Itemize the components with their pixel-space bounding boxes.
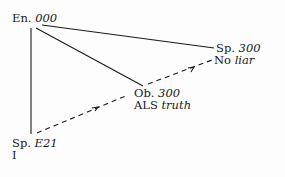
node-en-code: 000 <box>35 11 57 25</box>
node-ob-sub-italic: truth <box>161 98 191 112</box>
node-ob-sub: ALS <box>134 98 158 112</box>
arrowhead-icon <box>92 107 98 111</box>
node-sp-top-sub: No <box>214 53 231 67</box>
node-sp-top-sub-italic: liar <box>235 53 255 67</box>
edge-sp-bottom-ob <box>37 95 128 133</box>
node-sp-bottom-sub: I <box>12 148 17 162</box>
diagram-canvas: En. 000 Sp. 300 No liar Ob. 300 ALS trut… <box>0 0 285 177</box>
arrowhead-icon <box>188 67 194 72</box>
node-en: En. 000 <box>12 12 57 24</box>
node-sp-bottom-code: E21 <box>35 136 58 150</box>
node-en-prefix: En. <box>12 11 31 25</box>
node-sp-bottom: Sp. E21 I <box>12 137 58 161</box>
edge-en-sp-top <box>42 25 214 48</box>
node-ob: Ob. 300 ALS truth <box>134 87 191 111</box>
node-sp-top: Sp. 300 No liar <box>216 42 261 66</box>
edge-ob-sp-top <box>148 60 212 84</box>
